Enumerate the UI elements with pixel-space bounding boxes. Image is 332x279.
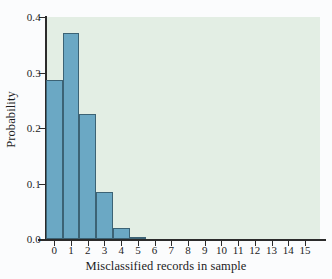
x-tick-label: 3 [102, 244, 108, 256]
x-tick-label: 13 [266, 244, 277, 256]
y-tick-label: 0.3 [27, 67, 41, 79]
x-tick-label: 15 [299, 244, 310, 256]
y-tick-label: 0.4 [27, 11, 41, 23]
x-tick-label: 0 [52, 244, 58, 256]
x-axis-line [38, 239, 326, 241]
x-tick-label: 12 [249, 244, 260, 256]
x-tick-label: 11 [233, 244, 244, 256]
x-tick-label: 2 [85, 244, 91, 256]
y-tick-label: 0.1 [27, 178, 41, 190]
x-axis-title: Misclassified records in sample [0, 259, 332, 274]
x-tick-label: 8 [185, 244, 191, 256]
x-tick-label: 1 [68, 244, 74, 256]
bar [113, 228, 130, 239]
x-tick-label: 14 [283, 244, 294, 256]
x-tick-label: 7 [169, 244, 175, 256]
y-tick-label: 0.2 [27, 122, 41, 134]
bar [63, 33, 80, 239]
bar [96, 192, 113, 239]
x-tick-label: 4 [118, 244, 124, 256]
bar [46, 80, 63, 239]
bar [130, 237, 147, 239]
x-tick-label: 5 [135, 244, 141, 256]
chart-figure: 0.00.10.20.30.4 0123456789101112131415 P… [0, 0, 332, 279]
x-tick-label: 6 [152, 244, 158, 256]
bar [79, 114, 96, 239]
x-tick-label: 9 [202, 244, 208, 256]
y-axis-title: Probability [4, 60, 19, 180]
y-tick-label: 0.0 [27, 233, 41, 245]
x-tick-label: 10 [216, 244, 227, 256]
